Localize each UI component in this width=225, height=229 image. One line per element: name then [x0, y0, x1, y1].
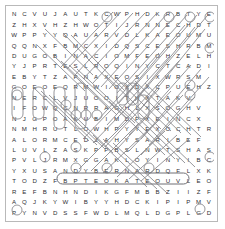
grid-cell[interactable]: H — [50, 19, 60, 29]
grid-cell[interactable]: Q — [60, 82, 70, 92]
grid-cell[interactable]: S — [173, 145, 183, 155]
grid-cell[interactable]: B — [91, 166, 101, 176]
grid-cell[interactable]: M — [122, 208, 132, 218]
grid-cell[interactable]: A — [132, 166, 142, 176]
grid-cell[interactable]: I — [112, 93, 122, 103]
grid-cell[interactable]: P — [40, 113, 50, 123]
grid-cell[interactable]: B — [112, 145, 122, 155]
grid-cell[interactable]: E — [19, 93, 29, 103]
grid-cell[interactable]: A — [91, 30, 101, 40]
grid-cell[interactable]: M — [204, 40, 214, 50]
grid-cell[interactable]: K — [81, 145, 91, 155]
grid-cell[interactable]: E — [142, 176, 152, 186]
grid-cell[interactable]: T — [101, 19, 111, 29]
grid-cell[interactable]: F — [30, 187, 40, 197]
grid-cell[interactable]: D — [153, 166, 163, 176]
grid-cell[interactable]: G — [112, 187, 122, 197]
grid-cell[interactable]: D — [81, 134, 91, 144]
grid-cell[interactable]: C — [173, 61, 183, 71]
grid-cell[interactable]: P — [30, 61, 40, 71]
grid-cell[interactable]: W — [153, 145, 163, 155]
grid-cell[interactable]: A — [91, 72, 101, 82]
grid-cell[interactable]: Z — [50, 72, 60, 82]
grid-cell[interactable]: U — [19, 51, 29, 61]
grid-cell[interactable]: Q — [122, 40, 132, 50]
grid-cell[interactable]: E — [163, 19, 173, 29]
grid-cell[interactable]: H — [183, 19, 193, 29]
grid-cell[interactable]: I — [163, 113, 173, 123]
grid-cell[interactable]: Y — [40, 30, 50, 40]
grid-cell[interactable]: Q — [60, 30, 70, 40]
grid-cell[interactable]: I — [183, 155, 193, 165]
grid-cell[interactable]: K — [173, 93, 183, 103]
grid-cell[interactable]: G — [30, 51, 40, 61]
grid-cell[interactable]: E — [60, 61, 70, 71]
grid-cell[interactable]: X — [153, 124, 163, 134]
grid-cell[interactable]: R — [40, 61, 50, 71]
grid-cell[interactable]: F — [122, 187, 132, 197]
grid-cell[interactable]: L — [183, 208, 193, 218]
grid-cell[interactable]: J — [19, 61, 29, 71]
grid-cell[interactable]: D — [194, 61, 204, 71]
grid-cell[interactable]: H — [132, 93, 142, 103]
grid-cell[interactable]: I — [71, 197, 81, 207]
grid-cell[interactable]: T — [204, 19, 214, 29]
grid-cell[interactable]: V — [194, 103, 204, 113]
grid-cell[interactable]: P — [101, 145, 111, 155]
grid-cell[interactable]: L — [71, 124, 81, 134]
grid-cell[interactable]: K — [142, 30, 152, 40]
grid-cell[interactable]: T — [163, 61, 173, 71]
grid-cell[interactable]: H — [204, 51, 214, 61]
grid-cell[interactable]: R — [101, 30, 111, 40]
letter-grid[interactable]: NCVUJAUTKCWPHDKRBTYEZHXVHZHWOTIJRNNECHDT… — [9, 9, 214, 218]
grid-cell[interactable]: J — [19, 113, 29, 123]
grid-cell[interactable]: P — [112, 124, 122, 134]
grid-cell[interactable]: C — [142, 40, 152, 50]
grid-cell[interactable]: P — [122, 9, 132, 19]
grid-cell[interactable]: V — [19, 155, 29, 165]
grid-cell[interactable]: B — [153, 187, 163, 197]
grid-cell[interactable]: C — [204, 155, 214, 165]
grid-cell[interactable]: U — [173, 82, 183, 92]
grid-cell[interactable]: T — [40, 72, 50, 82]
grid-cell[interactable]: D — [142, 9, 152, 19]
grid-cell[interactable] — [204, 113, 214, 123]
grid-cell[interactable]: O — [112, 51, 122, 61]
grid-cell[interactable]: T — [132, 176, 142, 186]
grid-cell[interactable]: L — [30, 155, 40, 165]
grid-cell[interactable]: R — [153, 134, 163, 144]
grid-cell[interactable]: M — [194, 197, 204, 207]
grid-cell[interactable]: V — [30, 9, 40, 19]
grid-cell[interactable]: E — [183, 82, 193, 92]
grid-cell[interactable]: K — [71, 113, 81, 123]
grid-cell[interactable]: R — [40, 134, 50, 144]
grid-cell[interactable]: Y — [19, 208, 29, 218]
grid-cell[interactable]: X — [30, 19, 40, 29]
grid-cell[interactable]: G — [30, 113, 40, 123]
grid-cell[interactable]: H — [132, 9, 142, 19]
grid-cell[interactable]: Y — [50, 197, 60, 207]
grid-cell[interactable]: T — [81, 9, 91, 19]
grid-cell[interactable]: M — [194, 72, 204, 82]
grid-cell[interactable]: C — [81, 40, 91, 50]
grid-cell[interactable]: X — [71, 155, 81, 165]
grid-cell[interactable]: Y — [50, 30, 60, 40]
grid-cell[interactable]: P — [71, 72, 81, 82]
grid-cell[interactable]: N — [142, 145, 152, 155]
grid-cell[interactable]: Y — [173, 155, 183, 165]
grid-cell[interactable]: S — [71, 145, 81, 155]
grid-cell[interactable]: N — [142, 19, 152, 29]
grid-cell[interactable]: U — [81, 30, 91, 40]
grid-cell[interactable]: B — [50, 51, 60, 61]
grid-cell[interactable]: Y — [122, 124, 132, 134]
grid-cell[interactable]: L — [194, 51, 204, 61]
grid-cell[interactable]: N — [30, 40, 40, 50]
grid-cell[interactable]: O — [101, 61, 111, 71]
grid-cell[interactable]: N — [163, 155, 173, 165]
grid-cell[interactable]: B — [60, 40, 70, 50]
grid-cell[interactable]: G — [112, 103, 122, 113]
grid-cell[interactable]: R — [91, 61, 101, 71]
grid-cell[interactable]: S — [122, 145, 132, 155]
grid-cell[interactable]: A — [101, 155, 111, 165]
grid-cell[interactable]: M — [112, 113, 122, 123]
